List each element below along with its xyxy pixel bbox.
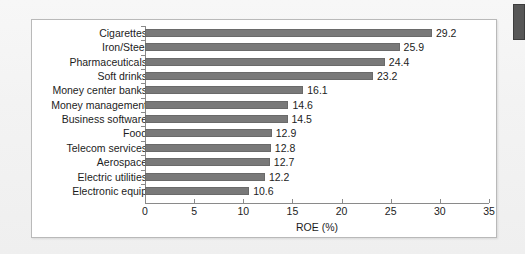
bar-value-label: 12.8 [275, 143, 295, 153]
category-label: Iron/Steel [0, 42, 147, 52]
bar-value-label: 10.6 [253, 186, 273, 196]
category-axis-tick [141, 69, 145, 70]
value-axis-tick-label: 15 [287, 206, 299, 217]
value-axis-tick [145, 199, 146, 203]
bar-value-label: 25.9 [404, 42, 424, 52]
x-axis-title: ROE (%) [145, 221, 489, 233]
bar [145, 187, 249, 195]
category-label: Food [0, 128, 147, 138]
bar [145, 43, 400, 51]
value-axis-tick-label: 30 [434, 206, 446, 217]
category-axis-tick [141, 26, 145, 27]
category-axis-tick [141, 155, 145, 156]
value-axis-tick-label: 10 [237, 206, 249, 217]
value-axis-tick-label: 25 [385, 206, 397, 217]
category-axis-tick [141, 83, 145, 84]
bar [145, 115, 288, 123]
value-axis-tick [391, 199, 392, 203]
category-axis-tick [141, 126, 145, 127]
bar-value-label: 12.7 [274, 157, 294, 167]
category-axis-tick [141, 141, 145, 142]
bar [145, 72, 373, 80]
bar-value-label: 16.1 [307, 85, 327, 95]
category-label: Aerospace [0, 157, 147, 167]
value-axis-tick [489, 199, 490, 203]
bar-value-label: 12.9 [276, 128, 296, 138]
value-axis-tick-label: 20 [336, 206, 348, 217]
bar [145, 129, 272, 137]
category-label: Electronic equip [0, 186, 147, 196]
category-label: Business software [0, 114, 147, 124]
category-label: Pharmaceuticals [0, 57, 147, 67]
bar [145, 144, 271, 152]
category-axis-tick [141, 55, 145, 56]
value-axis-tick [194, 199, 195, 203]
value-axis-tick [292, 199, 293, 203]
value-axis-tick [243, 199, 244, 203]
bar [145, 158, 270, 166]
bar [145, 86, 303, 94]
bar [145, 29, 432, 37]
bar-value-label: 14.6 [292, 100, 312, 110]
value-axis-tick [342, 199, 343, 203]
category-axis-tick [141, 170, 145, 171]
bar-value-label: 12.2 [269, 172, 289, 182]
category-label: Cigarettes [0, 28, 147, 38]
category-label: Money center banks [0, 85, 147, 95]
value-axis-tick-label: 0 [142, 206, 148, 217]
value-axis-tick [440, 199, 441, 203]
bar-value-label: 24.4 [389, 57, 409, 67]
bar [145, 101, 288, 109]
category-axis-tick [141, 112, 145, 113]
category-label: Soft drinks [0, 71, 147, 81]
bar [145, 173, 265, 181]
category-axis-tick [141, 98, 145, 99]
chart-figure-frame: Cigarettes29.2Iron/Steel25.9Pharmaceutic… [31, 19, 497, 238]
value-axis-line [145, 203, 489, 204]
category-label: Money management [0, 100, 147, 110]
value-axis-tick-label: 35 [483, 206, 495, 217]
bar-chart-plot-area: Cigarettes29.2Iron/Steel25.9Pharmaceutic… [32, 20, 498, 239]
bar-value-label: 14.5 [292, 114, 312, 124]
category-label: Electric utilities [0, 172, 147, 182]
value-axis-tick-label: 5 [191, 206, 197, 217]
bar-value-label: 23.2 [377, 71, 397, 81]
page-edge-marker [513, 4, 525, 40]
bar [145, 58, 385, 66]
category-axis-tick [141, 40, 145, 41]
bar-value-label: 29.2 [436, 28, 456, 38]
category-axis-tick [141, 184, 145, 185]
category-label: Telecom services [0, 143, 147, 153]
